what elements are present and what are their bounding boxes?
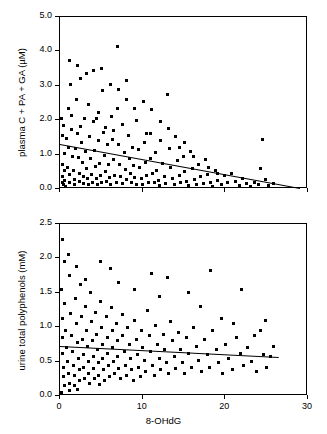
data-point [215, 348, 218, 351]
data-point [68, 274, 71, 277]
data-point [74, 297, 77, 300]
data-point [99, 260, 102, 263]
data-point [133, 288, 136, 291]
data-point [73, 183, 76, 186]
data-point [171, 177, 174, 180]
y-tick-label: 1.0 [19, 148, 52, 158]
data-point [142, 100, 145, 103]
data-point [238, 184, 241, 187]
y-tick-label: 2.5 [19, 217, 52, 227]
data-point [149, 132, 152, 135]
data-point [104, 170, 107, 173]
data-point [67, 372, 70, 375]
figure-root: plasma C + PA + GA (µM) 0.01.02.03.04.05… [0, 0, 327, 434]
data-point [208, 366, 211, 369]
data-point [261, 138, 264, 141]
data-point [173, 183, 176, 186]
y-tick-label: 0.0 [19, 182, 52, 192]
data-point [81, 161, 84, 164]
data-point [72, 364, 75, 367]
data-point [79, 283, 82, 286]
data-point [109, 267, 112, 270]
data-point [117, 281, 120, 284]
data-point [203, 338, 206, 341]
data-point [84, 305, 87, 308]
data-point [147, 181, 150, 184]
data-point [100, 67, 103, 70]
data-point [179, 348, 182, 351]
data-point [85, 72, 88, 75]
data-point [174, 135, 177, 138]
data-point [82, 182, 85, 185]
data-point [167, 372, 170, 375]
data-point [78, 379, 81, 382]
data-point [253, 334, 256, 337]
data-point [112, 360, 115, 363]
data-point [129, 172, 132, 175]
data-point [220, 183, 223, 186]
data-point [154, 324, 157, 327]
data-point [166, 93, 169, 96]
data-point [183, 170, 186, 173]
data-point [107, 163, 110, 166]
data-point [183, 141, 186, 144]
data-point [130, 181, 133, 184]
data-point [202, 182, 205, 185]
top-plot-area [59, 16, 307, 188]
data-point [176, 159, 179, 162]
data-point [150, 108, 153, 111]
data-point [102, 131, 105, 134]
data-point [110, 115, 113, 118]
data-point [61, 134, 64, 137]
data-point [60, 288, 63, 291]
data-point [76, 64, 79, 67]
data-point [117, 88, 120, 91]
data-point [94, 165, 97, 168]
data-point [145, 174, 148, 177]
data-point [216, 179, 219, 182]
data-point [66, 360, 69, 363]
data-point [92, 69, 95, 72]
data-point [154, 151, 157, 154]
data-point [98, 383, 101, 386]
data-point [61, 163, 64, 166]
data-point [82, 353, 85, 356]
y-tick-label: 0.0 [19, 389, 52, 399]
data-point [150, 272, 153, 275]
data-point [153, 181, 156, 184]
data-point [83, 377, 86, 380]
data-point [101, 343, 104, 346]
data-point [113, 372, 116, 375]
data-point [109, 183, 112, 186]
y-tick-label: 0.5 [19, 355, 52, 365]
data-point [75, 322, 78, 325]
data-point [156, 343, 159, 346]
data-point [87, 360, 90, 363]
data-point [125, 374, 128, 377]
data-point [143, 359, 146, 362]
y-tick-label: 4.0 [19, 44, 52, 54]
data-point [173, 355, 176, 358]
data-point [102, 368, 105, 371]
data-point [133, 319, 136, 322]
data-point [178, 146, 181, 149]
panel-top: plasma C + PA + GA (µM) 0.01.02.03.04.05… [0, 0, 327, 215]
data-point [137, 148, 140, 151]
data-point [77, 357, 80, 360]
data-point [257, 183, 260, 186]
data-point [187, 291, 190, 294]
data-point [264, 319, 267, 322]
data-point [88, 382, 91, 385]
data-point [66, 166, 69, 169]
data-point [151, 172, 154, 175]
data-point [190, 366, 193, 369]
data-point [138, 166, 141, 169]
x-tick-label: 20 [209, 401, 239, 411]
panel-bottom: urine total polyphenols (mM) 0.00.51.01.… [0, 215, 327, 434]
x-tick [59, 395, 60, 399]
data-point [80, 315, 83, 318]
data-point [121, 334, 124, 337]
data-point [189, 150, 192, 153]
data-point [127, 134, 130, 137]
data-point [174, 367, 177, 370]
